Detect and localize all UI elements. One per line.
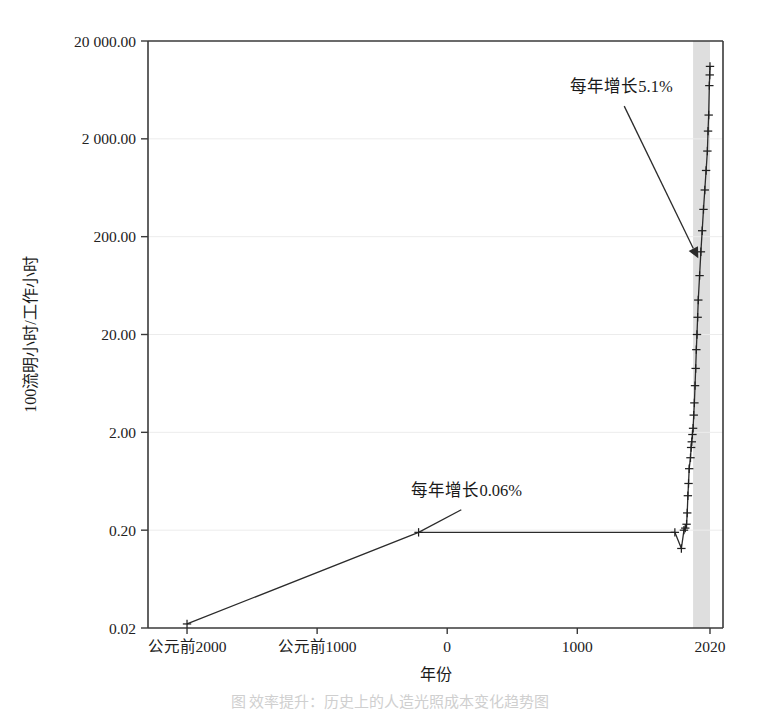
y-tick-label: 0.02: [109, 620, 136, 637]
data-line: [187, 66, 710, 624]
y-tick-label: 2.00: [109, 424, 136, 441]
y-tick-label: 200.00: [93, 228, 136, 245]
x-tick-label: 2020: [694, 638, 725, 655]
data-series-group: [183, 62, 714, 628]
y-tick-label: 0.20: [109, 522, 136, 539]
annotation-text-1: 每年增长0.06%: [411, 481, 522, 500]
x-tick-label: 公元前1000: [278, 638, 357, 655]
annotation-text-0: 每年增长5.1%: [570, 77, 673, 96]
annotations-group: 每年增长5.1%每年增长0.06%: [411, 77, 698, 532]
figure-container: 20 000.002 000.00200.0020.002.000.200.02…: [0, 0, 765, 715]
y-tick-label: 20 000.00: [74, 33, 136, 50]
x-tick-label: 公元前2000: [148, 638, 227, 655]
annotation-leader-0: [624, 106, 693, 248]
x-tick-label: 0: [443, 638, 451, 655]
y-axis-ticks: 20 000.002 000.00200.0020.002.000.200.02: [74, 33, 148, 637]
y-tick-label: 2 000.00: [82, 130, 137, 147]
figure-caption: 图 效率提升：历史上的人造光照成本变化趋势图: [231, 694, 550, 710]
y-axis-title: 100流明小时/工作小时: [22, 256, 39, 412]
x-tick-label: 1000: [562, 638, 593, 655]
annotation-leader-1: [419, 510, 462, 533]
x-axis-ticks: 公元前2000公元前1000010002020: [148, 628, 726, 655]
gridlines-group: [148, 139, 723, 530]
y-tick-label: 20.00: [101, 326, 136, 343]
x-axis-title: 年份: [420, 666, 452, 683]
chart-svg: 20 000.002 000.00200.0020.002.000.200.02…: [0, 0, 765, 715]
